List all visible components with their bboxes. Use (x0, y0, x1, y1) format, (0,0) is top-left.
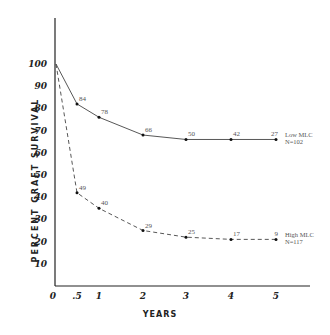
x-tick-label: 0 (50, 291, 57, 301)
y-tick-label: 100 (28, 59, 48, 69)
y-tick-label: 90 (34, 81, 47, 91)
x-tick-labels: 0.512345 (50, 291, 279, 301)
point-label: 40 (101, 199, 109, 207)
point-label: 84 (79, 95, 87, 103)
point-label: 9 (275, 230, 279, 238)
legend-text: High MLC (285, 231, 314, 238)
point-label: 29 (145, 222, 153, 230)
point-label: 78 (101, 108, 109, 116)
x-axis-label: YEARS (142, 310, 177, 319)
y-axis-label: PERCENT GRAFT SURVIVAL (31, 98, 40, 263)
legend-text: N=117 (285, 238, 304, 245)
x-tick-label: 1 (96, 291, 102, 301)
point-label: 66 (145, 126, 153, 134)
point-label: 42 (233, 130, 241, 138)
point-label: 50 (188, 130, 196, 138)
low-mlc-line (56, 64, 276, 139)
high-mlc-line (56, 64, 276, 239)
x-tick-label: 2 (139, 291, 146, 301)
point-label: 25 (188, 228, 196, 236)
point-label: 27 (271, 130, 279, 138)
point-label: 17 (233, 230, 241, 238)
x-tick-label: .5 (72, 291, 81, 301)
x-tick-label: 5 (273, 291, 279, 301)
x-tick-label: 3 (183, 291, 189, 301)
graft-survival-chart: 102030405060708090100 0.512345 PERCENT G… (0, 0, 330, 335)
series-group: 847866504227Low MLCN=10249402925179High … (56, 64, 314, 245)
point-label: 49 (79, 184, 87, 192)
legend-text: N=102 (285, 138, 303, 145)
legend-text: Low MLC (285, 131, 313, 138)
x-tick-label: 4 (228, 291, 234, 301)
